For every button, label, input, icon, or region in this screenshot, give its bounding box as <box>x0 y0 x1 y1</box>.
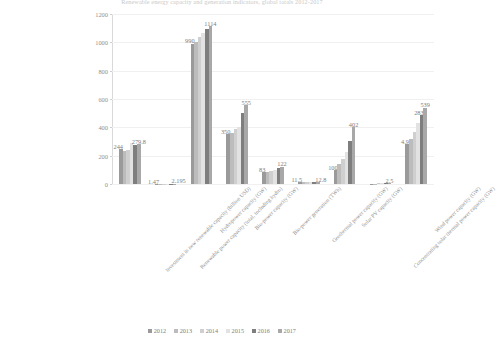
x-axis-label: Concentrating solar thermal power capaci… <box>413 186 496 269</box>
legend-label: 2013 <box>180 328 192 334</box>
bar-value-label: 11.5 <box>291 177 302 183</box>
y-axis-tick-label: 1000 <box>95 39 108 46</box>
legend-item-2017[interactable]: 2017 <box>278 328 296 334</box>
bar: 539 <box>423 108 427 184</box>
bar-group: 2.5 <box>362 14 398 184</box>
legend-swatch-icon <box>278 329 282 333</box>
legend-item-2013[interactable]: 2013 <box>174 328 192 334</box>
bar: 402 <box>352 127 356 184</box>
legend-swatch-icon <box>148 329 152 333</box>
bar-value-label: 350 <box>221 129 230 135</box>
bar: 279.8 <box>137 144 141 184</box>
legend-label: 2012 <box>154 328 166 334</box>
y-axis-tick-label: 200 <box>98 152 108 159</box>
bar-value-label: 990 <box>185 38 194 44</box>
x-axis-label: Geothermal power capacity (GW) <box>331 186 389 244</box>
bar-value-label: 402 <box>349 122 358 128</box>
legend-item-2014[interactable]: 2014 <box>200 328 218 334</box>
y-tick-mark <box>110 184 112 185</box>
bar-value-label: 555 <box>241 100 250 106</box>
bar-value-label: 244 <box>114 144 123 150</box>
bar: 2.5 <box>388 183 392 184</box>
bar-value-label: 283 <box>414 110 423 116</box>
bar-value-label: 122 <box>277 161 286 167</box>
bar-value-label: 12.8 <box>315 177 326 183</box>
bar-value-label: 2.5 <box>385 178 393 184</box>
legend-label: 2015 <box>232 328 244 334</box>
chart-legend: 201220132014201520162017 <box>0 328 444 334</box>
bar-value-label: 4.9 <box>401 139 409 145</box>
bar-group: 1.472.195 <box>148 14 184 184</box>
bar: 1114 <box>209 26 213 184</box>
bar-group: 4.9283539 <box>398 14 434 184</box>
bar-value-label: 100 <box>328 165 337 171</box>
bar-value-label: 1114 <box>204 21 216 27</box>
bar-value-label: 1.47 <box>148 179 159 185</box>
bar-value-label: 279.8 <box>132 139 146 145</box>
bar: 122 <box>280 167 284 184</box>
bar-groups: 244279.81.472.19599011143505558312211.51… <box>112 14 434 184</box>
bar-group: 9901114 <box>184 14 220 184</box>
legend-item-2012[interactable]: 2012 <box>148 328 166 334</box>
legend-swatch-icon <box>200 329 204 333</box>
x-axis-category-labels: Investment in new renewable capacity (bi… <box>112 186 434 302</box>
bar-group: 350555 <box>219 14 255 184</box>
bar-group: 244279.8 <box>112 14 148 184</box>
legend-item-2016[interactable]: 2016 <box>252 328 270 334</box>
bar-group: 100402 <box>327 14 363 184</box>
chart-title: Renewable energy capacity and generation… <box>0 0 444 5</box>
y-axis-tick-label: 800 <box>98 67 108 74</box>
x-axis-label: Bio-power generation (TWh) <box>292 186 342 236</box>
legend-label: 2016 <box>258 328 270 334</box>
legend-item-2015[interactable]: 2015 <box>226 328 244 334</box>
y-axis-tick-label: 0 <box>105 181 108 188</box>
bar: 555 <box>244 105 248 184</box>
bar-group: 11.512.8 <box>291 14 327 184</box>
bar-value-label: 83 <box>259 167 265 173</box>
bar-group: 83122 <box>255 14 291 184</box>
legend-swatch-icon <box>226 329 230 333</box>
legend-swatch-icon <box>252 329 256 333</box>
bar-value-label: 539 <box>420 102 429 108</box>
bar: 12.8 <box>316 182 320 184</box>
y-axis-tick-label: 600 <box>98 96 108 103</box>
plot-area: 020040060080010001200 244279.81.472.1959… <box>112 14 434 184</box>
y-axis-tick-label: 1200 <box>95 11 108 18</box>
legend-label: 2017 <box>284 328 296 334</box>
legend-label: 2014 <box>206 328 218 334</box>
legend-swatch-icon <box>174 329 178 333</box>
y-axis-tick-label: 400 <box>98 124 108 131</box>
